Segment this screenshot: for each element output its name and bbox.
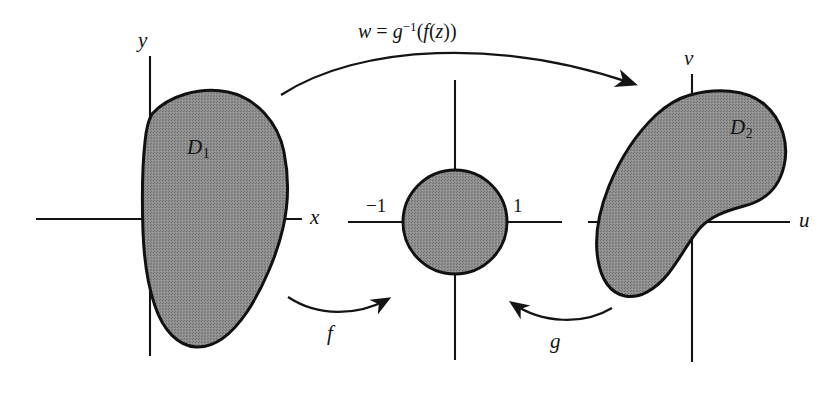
equation-close-paren: ) [450, 20, 457, 42]
region-d1-label-base: D [187, 135, 202, 159]
equation-g: g [393, 20, 403, 42]
v-axis-label: v [684, 48, 693, 69]
equation-inner-open-paren: ( [429, 20, 436, 42]
composite-map-equation: w=g−1(f(z)) [358, 20, 457, 41]
region-d1-label: D1 [187, 137, 210, 161]
region-d1-shape [142, 90, 287, 347]
u-axis-label: u [799, 210, 810, 231]
equation-w: w [358, 20, 371, 42]
region-d2-label-subscript: 2 [746, 126, 753, 141]
map-f-arrow [288, 297, 388, 312]
equation-equals: = [376, 20, 387, 42]
tick-label-minus-one: −1 [366, 196, 386, 215]
tick-label-one: 1 [513, 196, 523, 215]
x-axis-label: x [310, 207, 319, 228]
map-g-arrow [512, 303, 612, 320]
map-g-label: g [550, 331, 561, 352]
region-d1-label-subscript: 1 [203, 146, 210, 161]
equation-exponent: −1 [403, 19, 417, 34]
region-d2-label-base: D [730, 115, 745, 139]
region-d2-label: D2 [730, 117, 753, 141]
unit-disk-shape [403, 170, 507, 274]
map-f-label: f [327, 323, 333, 344]
diagram-canvas [0, 0, 834, 402]
conformal-mapping-diagram: w=g−1(f(z)) y x D1 −1 1 v u D2 f g [0, 0, 834, 402]
y-axis-label: y [138, 30, 147, 51]
composite-map-arrow [281, 53, 634, 95]
